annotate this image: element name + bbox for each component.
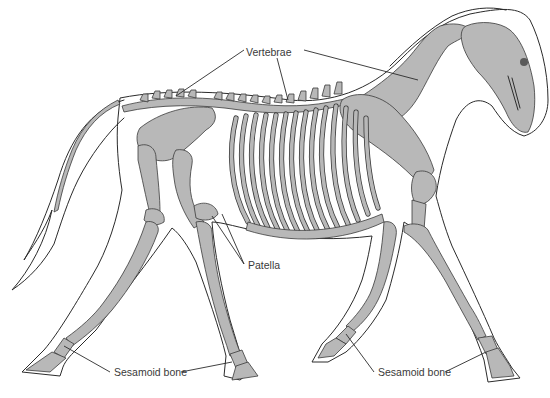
leader-sesamoid-fore-2: [445, 352, 486, 372]
horse-skeleton-illustration: [0, 0, 550, 398]
leader-sesamoid-hind-1: [64, 346, 110, 372]
label-sesamoid-hind: Sesamoid bone: [114, 366, 187, 378]
label-patella: Patella: [248, 259, 280, 271]
label-vertebrae: Vertebrae: [246, 46, 292, 58]
horse-skeleton-diagram: Vertebrae Patella Sesamoid bone Sesamoid…: [0, 0, 550, 398]
leader-sesamoid-fore-1: [346, 334, 374, 372]
label-sesamoid-fore: Sesamoid bone: [378, 366, 451, 378]
leader-vertebrae-thoracic: [277, 58, 288, 100]
leader-vertebrae-lumbar: [176, 50, 244, 96]
hindleg-far: [26, 145, 164, 372]
